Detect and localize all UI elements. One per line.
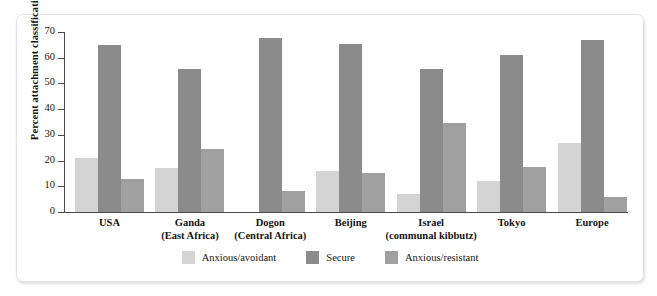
- bar: [604, 197, 627, 212]
- bar-group: [155, 32, 224, 212]
- y-axis-tick-label: 40: [45, 102, 56, 113]
- bar: [397, 194, 420, 212]
- bar: [523, 167, 546, 212]
- bar: [477, 181, 500, 212]
- bar-group: [236, 32, 305, 212]
- bar-group: [477, 32, 546, 212]
- x-axis-label-line1: Israel: [418, 217, 444, 228]
- bar: [558, 143, 581, 212]
- bar: [581, 40, 604, 212]
- bar-group: [558, 32, 627, 212]
- legend-swatch-icon: [182, 251, 195, 264]
- y-axis-tick-label: 70: [45, 25, 56, 36]
- bar: [316, 171, 339, 212]
- bar-group: [75, 32, 144, 212]
- legend-swatch-icon: [385, 251, 398, 264]
- bar: [282, 191, 305, 212]
- bar: [75, 158, 98, 212]
- y-axis-tick-label: 0: [50, 205, 55, 216]
- bar-group: [397, 32, 466, 212]
- legend-swatch-icon: [306, 251, 319, 264]
- legend-label: Anxious/resistant: [405, 252, 479, 263]
- bar: [443, 123, 466, 212]
- chart-legend: Anxious/avoidantSecureAnxious/resistant: [17, 251, 643, 264]
- legend-item[interactable]: Secure: [306, 251, 355, 264]
- bar: [339, 44, 362, 212]
- x-axis-label: Europe: [522, 217, 657, 230]
- legend-item[interactable]: Anxious/resistant: [385, 251, 479, 264]
- bar: [500, 55, 523, 212]
- y-axis-tick-label: 60: [45, 51, 56, 62]
- legend-label: Anxious/avoidant: [202, 252, 277, 263]
- y-axis-tick-label: 30: [45, 128, 56, 139]
- legend-item[interactable]: Anxious/avoidant: [182, 251, 277, 264]
- x-axis-line: [64, 212, 628, 213]
- bar: [201, 149, 224, 212]
- y-axis-tick-label: 10: [45, 179, 56, 190]
- bar: [362, 173, 385, 212]
- plot-area: [64, 32, 627, 212]
- bar: [420, 69, 443, 212]
- chart-figure-frame: Percent attachment classification 706050…: [16, 14, 644, 282]
- x-axis-label-line1: Europe: [576, 217, 609, 228]
- bar: [121, 179, 144, 212]
- bar: [98, 45, 121, 212]
- y-axis-tick: 0: [58, 212, 64, 213]
- x-axis-label-line2: (Central Africa): [200, 230, 340, 243]
- bar-group: [316, 32, 385, 212]
- y-axis-tick-mark: [58, 212, 64, 213]
- bar: [178, 69, 201, 212]
- y-axis-title: Percent attachment classification: [29, 0, 40, 150]
- x-axis-label-line1: USA: [99, 217, 120, 228]
- x-axis-label-line2: (communal kibbutz): [361, 230, 501, 243]
- y-axis-tick-label: 20: [45, 154, 56, 165]
- bar: [259, 38, 282, 212]
- y-axis-tick-label: 50: [45, 76, 56, 87]
- legend-label: Secure: [326, 252, 355, 263]
- bar: [155, 168, 178, 212]
